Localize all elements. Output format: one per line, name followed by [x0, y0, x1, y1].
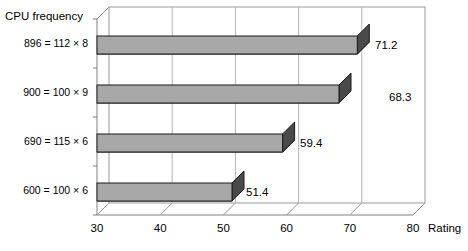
xtick-label-2: 50	[217, 222, 230, 234]
floor-connector-60	[287, 203, 299, 215]
xtick-label-0: 30	[91, 222, 104, 234]
depth-edge-top-left	[97, 7, 109, 19]
cpu-frequency-rating-chart: 71.2 68.3 59.4 51.4 896 = 112 × 8 900 = …	[0, 0, 468, 251]
xtick-label-1: 40	[154, 222, 167, 234]
category-label-2: 690 = 115 × 6	[24, 135, 88, 147]
value-label-3: 51.4	[246, 186, 269, 198]
value-label-2: 59.4	[300, 137, 323, 149]
category-label-1: 900 = 100 × 9	[23, 86, 88, 98]
category-axis-title: CPU frequency	[5, 10, 83, 22]
category-label-0: 896 = 112 × 8	[24, 37, 88, 49]
bar-front-face	[97, 36, 357, 54]
floor-connector-70	[350, 203, 362, 215]
xtick-label-3: 60	[280, 222, 293, 234]
value-label-1: 68.3	[389, 91, 411, 103]
value-label-0: 71.2	[375, 39, 397, 51]
depth-edge-bottom-right	[413, 203, 425, 215]
floor-connector-50	[223, 203, 235, 215]
value-axis-title: Rating	[428, 222, 461, 234]
xtick-label-5: 80	[407, 222, 420, 234]
bar-front-face	[97, 134, 283, 152]
depth-edge-bottom-left	[97, 203, 109, 215]
bar-front-face	[97, 85, 339, 103]
floor-connector-40	[160, 203, 172, 215]
category-axis-ticks	[93, 19, 97, 215]
bar-front-face	[97, 183, 232, 201]
xtick-label-4: 70	[343, 222, 356, 234]
floor-tick-connectors	[160, 203, 362, 215]
category-label-3: 600 = 100 × 6	[23, 184, 88, 196]
chart-svg: 71.2 68.3 59.4 51.4 896 = 112 × 8 900 = …	[0, 0, 468, 251]
